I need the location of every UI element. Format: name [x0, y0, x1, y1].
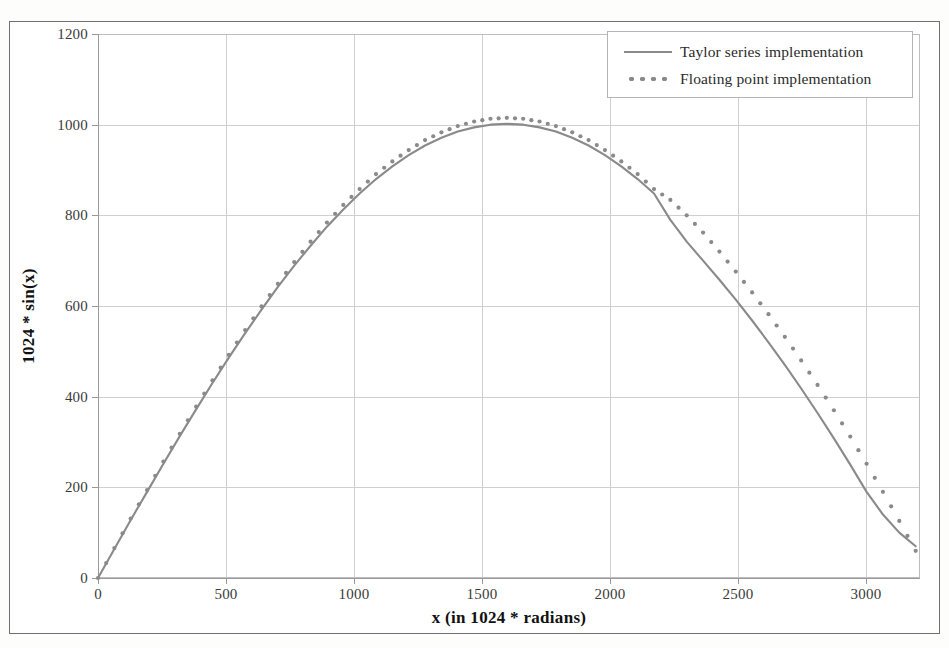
x-tick-label-500: 500 [186, 586, 266, 603]
x-tick-label-2000: 2000 [570, 586, 650, 603]
y-tick-label-400: 400 [4, 389, 88, 406]
chart-legend: Taylor series implementation Floating po… [607, 31, 913, 98]
y-tick-600 [92, 306, 98, 307]
legend-key-dotted-icon [622, 73, 674, 85]
y-tick-1200 [92, 34, 98, 35]
x-tick-1000 [354, 578, 355, 584]
x-tick-1500 [482, 578, 483, 584]
x-tick-label-3000: 3000 [826, 586, 906, 603]
plot-frame [98, 34, 920, 578]
sine-comparison-chart: 1200 1000 800 600 400 200 0 0 500 1000 1… [0, 0, 949, 648]
y-tick-1000 [92, 125, 98, 126]
x-axis-title: x (in 1024 * radians) [98, 608, 920, 628]
x-tick-500 [226, 578, 227, 584]
legend-item-taylor: Taylor series implementation [608, 38, 912, 65]
x-tick-0 [98, 578, 99, 584]
y-axis-title: 1024 * sin(x) [19, 216, 39, 416]
x-tick-2500 [738, 578, 739, 584]
x-axis-line [98, 578, 920, 579]
y-tick-label-1200: 1200 [4, 26, 88, 43]
legend-label-floating-point: Floating point implementation [680, 70, 871, 88]
legend-label-taylor: Taylor series implementation [680, 43, 863, 61]
y-tick-label-0: 0 [4, 570, 88, 587]
y-tick-800 [92, 215, 98, 216]
x-tick-label-2500: 2500 [698, 586, 778, 603]
legend-key-solid-icon [622, 46, 674, 58]
x-tick-label-0: 0 [58, 586, 138, 603]
y-tick-label-600: 600 [4, 298, 88, 315]
x-tick-label-1500: 1500 [442, 586, 522, 603]
legend-item-floating-point: Floating point implementation [608, 65, 912, 92]
y-axis-line [98, 34, 99, 579]
y-tick-label-1000: 1000 [4, 117, 88, 134]
y-tick-label-800: 800 [4, 207, 88, 224]
x-tick-3000 [866, 578, 867, 584]
figure-page: 1200 1000 800 600 400 200 0 0 500 1000 1… [0, 0, 949, 648]
x-tick-label-1000: 1000 [314, 586, 394, 603]
x-tick-2000 [610, 578, 611, 584]
y-tick-200 [92, 487, 98, 488]
y-tick-400 [92, 397, 98, 398]
y-tick-label-200: 200 [4, 479, 88, 496]
